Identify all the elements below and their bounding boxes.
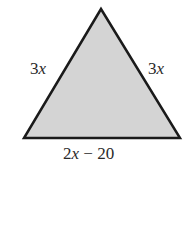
left-side-coef: 3 <box>30 59 39 78</box>
right-side-label: 3x <box>148 60 164 77</box>
base-rest: − 20 <box>79 144 114 163</box>
left-side-label: 3x <box>30 60 46 77</box>
left-side-var: x <box>39 59 47 78</box>
right-side-var: x <box>157 59 165 78</box>
base-var: x <box>72 144 80 163</box>
base-coef: 2 <box>63 144 72 163</box>
right-side-coef: 3 <box>148 59 157 78</box>
base-label: 2x − 20 <box>63 145 114 162</box>
